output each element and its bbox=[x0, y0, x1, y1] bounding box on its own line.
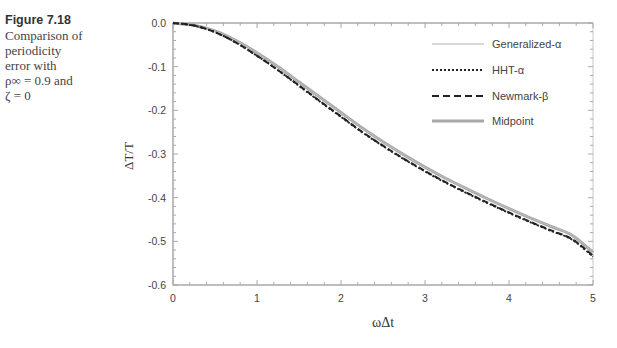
x-axis-title: ωΔt bbox=[372, 315, 394, 330]
y-tick-label: -0.3 bbox=[148, 148, 166, 160]
x-tick-labels: 0 1 2 3 4 5 bbox=[170, 292, 596, 304]
legend-label: HHT-α bbox=[492, 64, 525, 76]
x-tick-label: 5 bbox=[590, 292, 596, 304]
series-hht-alpha bbox=[173, 23, 593, 257]
y-tick-label: -0.2 bbox=[148, 104, 166, 116]
series-generalized-alpha bbox=[173, 23, 593, 252]
x-tick-label: 3 bbox=[422, 292, 428, 304]
y-tick-label: -0.6 bbox=[148, 279, 166, 291]
legend-label: Generalized-α bbox=[492, 38, 562, 50]
legend-label: Newmark-β bbox=[492, 90, 548, 102]
y-tick-label: 0.0 bbox=[151, 17, 166, 29]
y-tick-label: -0.4 bbox=[148, 192, 166, 204]
plot-frame bbox=[173, 23, 593, 285]
y-tick-labels: 0.0 -0.1 -0.2 -0.3 -0.4 -0.5 -0.6 bbox=[148, 17, 166, 291]
x-tick-label: 4 bbox=[506, 292, 512, 304]
line-chart: 0.0 -0.1 -0.2 -0.3 -0.4 -0.5 -0.6 0 1 2 … bbox=[0, 0, 617, 348]
legend: Generalized-α HHT-α Newmark-β Midpoint bbox=[432, 38, 562, 127]
x-tick-label: 0 bbox=[170, 292, 176, 304]
axis-ticks bbox=[173, 23, 593, 285]
series-lines bbox=[173, 23, 593, 257]
y-tick-label: -0.1 bbox=[148, 61, 166, 73]
x-tick-label: 2 bbox=[338, 292, 344, 304]
legend-label: Midpoint bbox=[492, 115, 534, 127]
series-newmark-beta bbox=[173, 23, 593, 256]
y-axis-title: ΔT/T bbox=[121, 142, 136, 170]
x-tick-label: 1 bbox=[254, 292, 260, 304]
y-tick-label: -0.5 bbox=[148, 235, 166, 247]
